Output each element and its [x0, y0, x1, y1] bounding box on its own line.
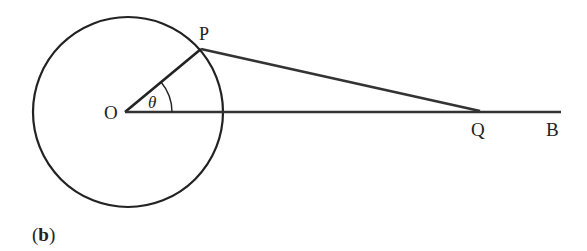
radius-op — [125, 49, 201, 112]
label-o: O — [104, 102, 118, 123]
geometry-diagram: O θ P Q B (b) — [0, 0, 587, 251]
caption-close-paren: ) — [49, 224, 55, 246]
label-q: Q — [471, 119, 485, 140]
angle-arc — [161, 82, 172, 112]
segment-pq — [201, 49, 480, 111]
label-p: P — [199, 24, 209, 44]
label-b: B — [546, 119, 559, 140]
figure-caption: (b) — [32, 224, 55, 246]
caption-letter: b — [38, 224, 49, 245]
label-theta: θ — [148, 93, 156, 112]
